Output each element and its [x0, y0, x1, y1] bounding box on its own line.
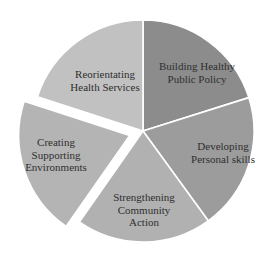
label-line: Environments — [25, 161, 87, 174]
label-strengthening-community-action: StrengtheningCommunityAction — [113, 191, 175, 229]
label-line: Community — [113, 204, 175, 217]
label-line: Action — [113, 216, 175, 229]
label-line: Developing — [191, 140, 255, 153]
label-line: Reorientating — [70, 68, 139, 81]
label-line: Strengthening — [113, 191, 175, 204]
label-line: Supporting — [25, 149, 87, 162]
label-developing-personal-skills: DevelopingPersonal skills — [191, 140, 255, 165]
label-line: Public Policy — [159, 72, 235, 85]
label-line: Building Healthy — [159, 60, 235, 73]
label-line: Health Services — [70, 80, 139, 93]
label-reorientating-health-services: ReorientatingHealth Services — [70, 68, 139, 93]
label-line: Creating — [25, 136, 87, 149]
label-creating-supporting-environments: CreatingSupportingEnvironments — [25, 136, 87, 174]
label-building-healthy-public-policy: Building HealthyPublic Policy — [159, 60, 235, 85]
label-line: Personal skills — [191, 152, 255, 165]
